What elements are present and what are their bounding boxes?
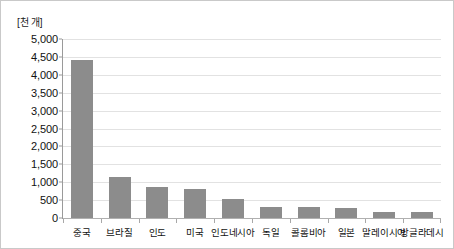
x-axis-tick-label-group: 중국브라질인도미국인도네시아독일콜롬비아일본말레이시아방글라데시 bbox=[63, 225, 441, 245]
bar bbox=[146, 187, 168, 219]
bar-slot bbox=[290, 39, 328, 218]
bar-slot bbox=[214, 39, 252, 218]
bar bbox=[411, 212, 433, 218]
y-axis-tick-label: 3,000 bbox=[31, 105, 58, 117]
y-axis-tick-label: 5,000 bbox=[31, 33, 58, 45]
y-axis-tick-label-group: 5,0004,5004,0003,5003,0002,5002,0001,500… bbox=[1, 39, 58, 218]
x-axis-tick-mark bbox=[176, 219, 177, 223]
x-axis-tick-mark-group bbox=[63, 219, 441, 223]
bar bbox=[260, 207, 282, 218]
bar bbox=[222, 199, 244, 218]
x-axis-tick-label: 미국 bbox=[186, 225, 204, 239]
y-axis-tick-label: 1,000 bbox=[31, 176, 58, 188]
x-axis-tick-label: 중국 bbox=[73, 225, 91, 239]
x-axis-tick-label: 방글라데시 bbox=[400, 225, 444, 239]
y-axis-tick-label: 2,000 bbox=[31, 140, 58, 152]
x-axis-tick-mark bbox=[403, 219, 404, 223]
x-axis-tick-mark bbox=[290, 219, 291, 223]
bar bbox=[373, 212, 395, 218]
x-axis-tick-mark bbox=[139, 219, 140, 223]
bar-slot bbox=[176, 39, 214, 218]
bar bbox=[184, 189, 206, 218]
bar-slot bbox=[328, 39, 366, 218]
y-axis-unit-label: [천 개] bbox=[17, 14, 42, 29]
bar-slot bbox=[365, 39, 403, 218]
x-axis-tick-mark bbox=[252, 219, 253, 223]
bar bbox=[109, 177, 131, 218]
y-axis-tick-label: 1,500 bbox=[31, 158, 58, 170]
x-axis-tick-label: 인도네시아 bbox=[211, 225, 255, 239]
x-axis-tick-label: 인도 bbox=[149, 225, 167, 239]
x-axis-tick-label: 콜롬비아 bbox=[291, 225, 326, 239]
x-axis-tick-label: 브라질 bbox=[106, 225, 132, 239]
bar-chart-figure: [천 개] 5,0004,5004,0003,5003,0002,5002,00… bbox=[0, 0, 454, 249]
bar bbox=[71, 60, 93, 218]
x-axis-tick-mark bbox=[365, 219, 366, 223]
y-axis-tick-label: 0 bbox=[52, 212, 58, 224]
x-axis-tick-mark bbox=[63, 219, 64, 223]
bar-series-group bbox=[63, 39, 441, 218]
x-axis-tick-label: 독일 bbox=[262, 225, 280, 239]
bar-slot bbox=[63, 39, 101, 218]
y-axis-tick-label: 4,500 bbox=[31, 51, 58, 63]
x-axis-tick-mark bbox=[328, 219, 329, 223]
y-axis-tick-label: 4,000 bbox=[31, 69, 58, 81]
x-axis-tick-mark bbox=[440, 219, 441, 223]
bar-slot bbox=[403, 39, 441, 218]
y-axis-tick-label: 2,500 bbox=[31, 123, 58, 135]
bar-slot bbox=[101, 39, 139, 218]
x-axis-tick-mark bbox=[101, 219, 102, 223]
y-axis-tick-label: 3,500 bbox=[31, 87, 58, 99]
bar-slot bbox=[252, 39, 290, 218]
y-axis-tick-label: 500 bbox=[40, 194, 58, 206]
bar bbox=[298, 207, 320, 218]
x-axis-tick-mark bbox=[214, 219, 215, 223]
bar bbox=[335, 208, 357, 218]
x-axis-tick-label: 일본 bbox=[338, 225, 356, 239]
bar-slot bbox=[139, 39, 177, 218]
